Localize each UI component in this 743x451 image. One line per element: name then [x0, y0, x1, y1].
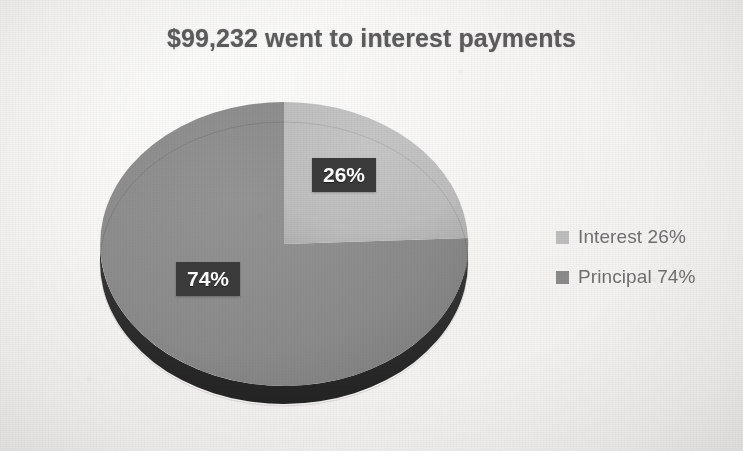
legend-item-interest[interactable]: Interest 26% [556, 226, 695, 248]
pie-svg [98, 92, 470, 408]
legend-label-principal: Principal 74% [578, 266, 695, 288]
data-label-principal: 74% [176, 262, 240, 296]
legend-label-interest: Interest 26% [578, 226, 686, 248]
pie-chart-figure: $99,232 went to interest payments [0, 0, 743, 451]
legend-swatch-principal [556, 271, 569, 284]
legend-swatch-interest [556, 231, 569, 244]
pie-graphic [98, 92, 470, 408]
chart-legend: Interest 26% Principal 74% [556, 226, 695, 306]
legend-item-principal[interactable]: Principal 74% [556, 266, 695, 288]
data-label-interest: 26% [312, 158, 376, 192]
chart-title: $99,232 went to interest payments [0, 24, 743, 53]
